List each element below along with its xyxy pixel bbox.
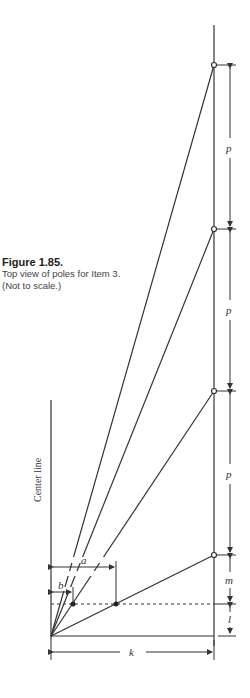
- label-k: k: [129, 646, 135, 658]
- point-a: [114, 602, 119, 607]
- label-b: b: [58, 579, 64, 591]
- center-line-label: Center line: [32, 457, 43, 502]
- point-b: [71, 602, 76, 607]
- pole-1: [212, 63, 217, 68]
- sight-line-1: [51, 65, 214, 636]
- pole-2: [212, 227, 217, 232]
- label-p-2: p: [225, 304, 232, 316]
- pole-4: [212, 553, 217, 558]
- label-a: a: [81, 554, 87, 566]
- label-p-3: p: [225, 468, 232, 480]
- label-m: m: [225, 574, 233, 586]
- pole-3: [212, 389, 217, 394]
- sight-line-3: [51, 391, 214, 636]
- label-l: l: [228, 613, 231, 625]
- pole-diagram: p p p m l k a b Center line: [0, 0, 250, 698]
- label-p-1: p: [225, 142, 232, 154]
